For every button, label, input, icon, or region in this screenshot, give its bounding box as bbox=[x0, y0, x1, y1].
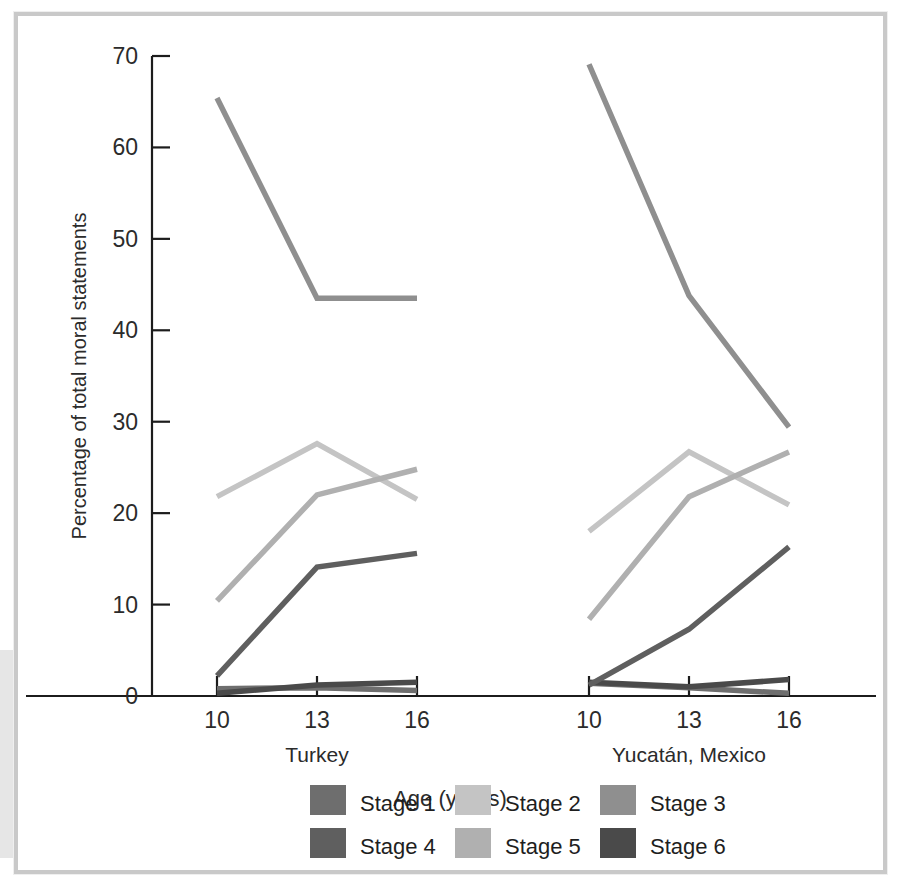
figure-frame: 010203040506070101316Turkey101316Yucatán… bbox=[14, 12, 887, 874]
legend-swatch bbox=[310, 785, 346, 815]
legend-label: Stage 1 bbox=[360, 791, 436, 816]
x-tick-label: 10 bbox=[204, 707, 230, 733]
legend-item-stage-6[interactable]: Stage 6 bbox=[600, 828, 726, 859]
y-tick-label: 20 bbox=[112, 500, 138, 526]
line-chart: 010203040506070101316Turkey101316Yucatán… bbox=[18, 16, 883, 870]
legend-label: Stage 4 bbox=[360, 834, 436, 859]
x-tick-label: 10 bbox=[576, 707, 602, 733]
legend-item-stage-4[interactable]: Stage 4 bbox=[310, 828, 436, 859]
legend-label: Stage 2 bbox=[505, 791, 581, 816]
series-line-stage-5-yucatan bbox=[589, 452, 789, 619]
legend-swatch bbox=[600, 828, 636, 858]
figure-root: 010203040506070101316Turkey101316Yucatán… bbox=[0, 0, 901, 896]
y-tick-label: 50 bbox=[112, 226, 138, 252]
series-line-stage-3-yucatan bbox=[589, 64, 789, 427]
x-tick-label: 13 bbox=[676, 707, 702, 733]
legend-swatch bbox=[455, 785, 491, 815]
group-label-yucatan: Yucatán, Mexico bbox=[612, 743, 766, 766]
legend-item-stage-3[interactable]: Stage 3 bbox=[600, 785, 726, 816]
legend-label: Stage 3 bbox=[650, 791, 726, 816]
group-label-turkey: Turkey bbox=[285, 743, 349, 766]
y-axis-title: Percentage of total moral statements bbox=[68, 213, 90, 540]
series-line-stage-5-turkey bbox=[217, 469, 417, 601]
legend-item-stage-2[interactable]: Stage 2 bbox=[455, 785, 581, 816]
legend-label: Stage 5 bbox=[505, 834, 581, 859]
x-tick-label: 13 bbox=[304, 707, 330, 733]
legend-swatch bbox=[310, 828, 346, 858]
legend-swatch bbox=[600, 785, 636, 815]
legend-item-stage-5[interactable]: Stage 5 bbox=[455, 828, 581, 859]
x-tick-label: 16 bbox=[776, 707, 802, 733]
y-tick-label: 0 bbox=[125, 683, 138, 709]
series-line-stage-2-turkey bbox=[217, 444, 417, 500]
y-tick-label: 10 bbox=[112, 592, 138, 618]
legend-swatch bbox=[455, 828, 491, 858]
y-tick-label: 60 bbox=[112, 134, 138, 160]
y-tick-label: 70 bbox=[112, 43, 138, 69]
series-line-stage-3-turkey bbox=[217, 98, 417, 298]
series-line-stage-4-yucatan bbox=[589, 547, 789, 685]
y-tick-label: 30 bbox=[112, 409, 138, 435]
y-tick-label: 40 bbox=[112, 317, 138, 343]
x-tick-label: 16 bbox=[404, 707, 430, 733]
legend-label: Stage 6 bbox=[650, 834, 726, 859]
